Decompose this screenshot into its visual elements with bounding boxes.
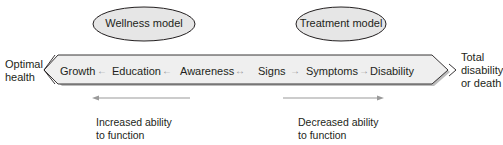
decreased-ability-line1: Decreased ability [298, 116, 379, 129]
continuum-item-disability: Disability [370, 64, 414, 78]
total-disability-label: Total disability or death [461, 51, 503, 90]
total-disability-line1: Total [461, 51, 503, 64]
decreased-ability-line2: to function [298, 129, 379, 142]
right-arrow-icon: → [359, 64, 369, 78]
wellness-model-label: Wellness model [93, 17, 195, 29]
continuum-item-growth: Growth [60, 64, 95, 78]
total-disability-line3: or death [461, 77, 503, 90]
right-arrowhead-icon [377, 96, 384, 101]
treatment-model-label: Treatment model [296, 17, 386, 29]
bidirectional-arrow-icon: ↔ [235, 64, 245, 78]
right-arrow-icon: → [290, 64, 300, 78]
decreased-ability-label: Decreased ability to function [298, 116, 379, 142]
continuum-item-awareness: Awareness [180, 64, 234, 78]
left-arrow-icon: ← [97, 64, 107, 78]
left-arrow-icon: ← [162, 64, 172, 78]
right-chevron-icon [449, 64, 456, 76]
left-arrowhead-icon [92, 96, 99, 101]
optimal-health-line2: health [5, 71, 43, 84]
increased-ability-line1: Increased ability [96, 116, 172, 129]
continuum-item-signs: Signs [258, 64, 286, 78]
increased-ability-line2: to function [96, 129, 172, 142]
optimal-health-line1: Optimal [5, 58, 43, 71]
increased-ability-label: Increased ability to function [96, 116, 172, 142]
continuum-item-symptoms: Symptoms [306, 64, 358, 78]
total-disability-line2: disability [461, 64, 503, 77]
continuum-item-education: Education [112, 64, 161, 78]
optimal-health-label: Optimal health [5, 58, 43, 84]
